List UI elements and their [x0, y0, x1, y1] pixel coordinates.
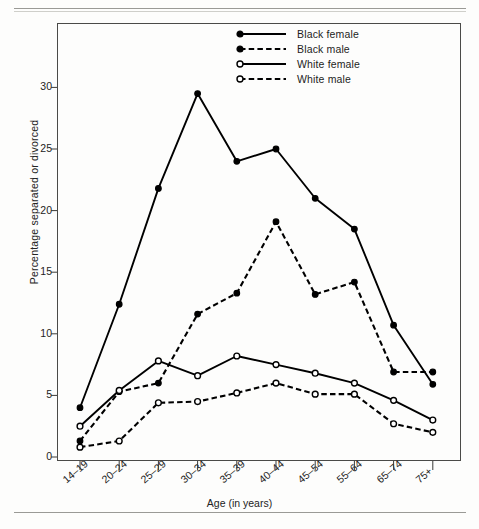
- data-point: [195, 311, 201, 317]
- legend-label: Black female: [297, 28, 359, 40]
- data-point: [352, 226, 358, 232]
- legend-key-filled-circle: [236, 28, 288, 40]
- legend-label: White male: [297, 73, 351, 85]
- data-point: [391, 322, 397, 328]
- data-point: [312, 370, 318, 376]
- data-point: [391, 369, 397, 375]
- data-point: [156, 380, 162, 386]
- data-point: [116, 438, 122, 444]
- legend-item: Black male: [236, 41, 360, 56]
- legend-key-open-circle: [236, 58, 288, 70]
- data-point: [234, 159, 240, 165]
- data-point: [234, 390, 240, 396]
- data-point: [430, 369, 436, 375]
- data-point: [156, 186, 162, 192]
- series-line-white-male: [80, 383, 433, 447]
- data-point: [77, 444, 83, 450]
- data-point: [273, 146, 279, 152]
- data-point: [77, 405, 83, 411]
- data-point: [391, 421, 397, 427]
- data-point: [116, 388, 122, 394]
- data-point: [430, 382, 436, 388]
- data-point: [195, 373, 201, 379]
- data-point: [430, 429, 436, 435]
- data-point: [312, 391, 318, 397]
- series-line-black-male: [80, 222, 433, 441]
- data-point: [77, 438, 83, 444]
- legend-label: White female: [297, 58, 360, 70]
- data-point: [195, 399, 201, 405]
- legend-item: White male: [236, 71, 360, 86]
- data-point: [430, 417, 436, 423]
- data-point: [234, 290, 240, 296]
- data-point: [312, 195, 318, 201]
- legend-key-open-circle: [236, 73, 288, 85]
- data-point: [352, 279, 358, 285]
- data-point: [234, 353, 240, 359]
- legend-item: Black female: [236, 26, 360, 41]
- legend-label: Black male: [297, 43, 350, 55]
- data-point: [116, 301, 122, 307]
- data-point: [273, 380, 279, 386]
- data-point: [273, 362, 279, 368]
- data-point: [352, 391, 358, 397]
- data-point: [156, 358, 162, 364]
- figure-page: Percentage separated or divorced Age (in…: [0, 0, 479, 529]
- legend-item: White female: [236, 56, 360, 71]
- data-point: [77, 423, 83, 429]
- data-point: [312, 292, 318, 298]
- legend-key-filled-circle: [236, 43, 288, 55]
- data-point: [195, 91, 201, 97]
- data-point: [156, 400, 162, 406]
- data-point: [391, 397, 397, 403]
- data-point: [352, 380, 358, 386]
- chart-legend: Black femaleBlack maleWhite femaleWhite …: [236, 26, 360, 86]
- series-line-white-female: [80, 356, 433, 426]
- data-point: [273, 219, 279, 225]
